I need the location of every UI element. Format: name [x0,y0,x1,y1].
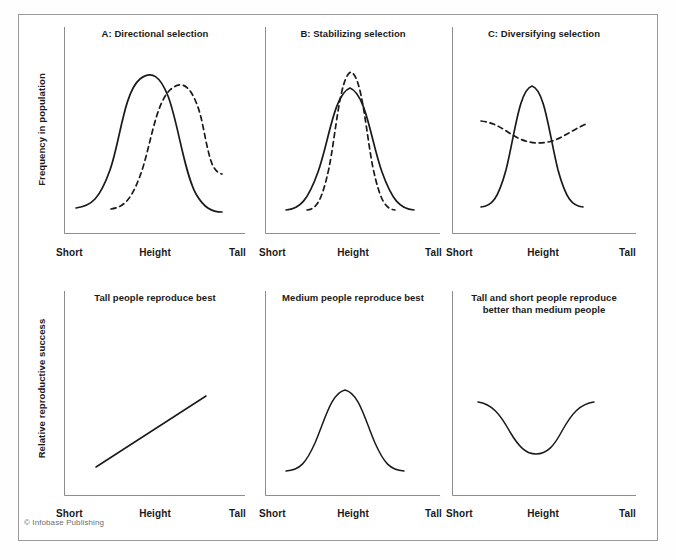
panel-e-xtick-tall: Tall [392,508,442,519]
figure-root: A: Directional selection B: Stabilizing … [0,0,676,560]
panel-d-title: Tall people reproduce best [64,292,246,304]
panel-e-xtick-height: Height [308,508,398,519]
panel-f-xtick-height: Height [498,508,588,519]
panel-c-title: C: Diversifying selection [452,28,636,40]
panel-d-xtick-height: Height [110,508,200,519]
panel-c-xtick-tall: Tall [586,247,636,258]
figure-border [18,14,658,541]
panel-a-title: A: Directional selection [64,28,246,40]
panel-e-title: Medium people reproduce best [265,292,441,304]
panel-a-xtick-short: Short [56,247,83,258]
panel-f-title: Tall and short people reproduce better t… [452,292,636,315]
panel-f-xtick-tall: Tall [586,508,636,519]
panel-b-title: B: Stabilizing selection [265,28,441,40]
y-axis-label-bottom-row: Relative reproductive success [36,306,47,472]
panel-b-xtick-height: Height [308,247,398,258]
panel-e-xtick-short: Short [259,508,286,519]
panel-a-xtick-height: Height [110,247,200,258]
panel-b-xtick-short: Short [259,247,286,258]
panel-b-xtick-tall: Tall [392,247,442,258]
y-axis-label-top-row: Frequency in population [36,65,47,195]
panel-c-xtick-short: Short [446,247,473,258]
panel-d-xtick-tall: Tall [196,508,246,519]
copyright-notice: © Infobase Publishing [24,518,104,527]
panel-f-xtick-short: Short [446,508,473,519]
panel-c-xtick-height: Height [498,247,588,258]
panel-a-xtick-tall: Tall [196,247,246,258]
